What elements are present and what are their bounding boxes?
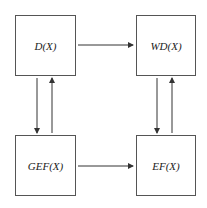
- edges-layer: [0, 0, 207, 208]
